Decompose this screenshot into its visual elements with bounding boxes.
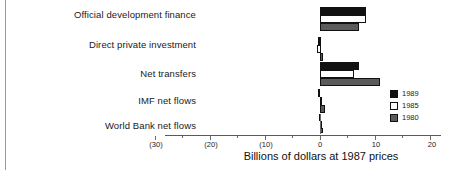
x-axis-minor-tick-5 bbox=[347, 136, 348, 138]
bar-net-transfers-1980 bbox=[320, 78, 380, 86]
bar-official-development-finance-1985 bbox=[320, 15, 366, 23]
legend-swatch-icon-1980 bbox=[390, 114, 398, 122]
chart-legend: 1989 1985 1980 bbox=[390, 88, 419, 124]
bar-imf-net-flows-1980 bbox=[320, 105, 325, 113]
legend-label-1980: 1980 bbox=[402, 113, 419, 122]
legend-swatch-icon-1989 bbox=[390, 90, 398, 98]
x-axis-minor-tick-15 bbox=[402, 136, 403, 138]
x-axis-tick-label-zero: 0 bbox=[318, 140, 322, 149]
x-axis-title: Billions of dollars at 1987 prices bbox=[244, 150, 399, 162]
legend-item-1985: 1985 bbox=[390, 100, 419, 111]
x-axis-tick-label-20: 20 bbox=[428, 140, 436, 149]
x-axis-tick-label-minus10: (10) bbox=[259, 140, 272, 149]
x-axis-tick-label-10: 10 bbox=[372, 140, 380, 149]
plot-area bbox=[0, 0, 457, 134]
legend-item-1989: 1989 bbox=[390, 88, 419, 99]
x-axis-tick-label-minus20: (20) bbox=[204, 140, 217, 149]
zero-reference-line bbox=[320, 114, 321, 134]
x-axis-minor-tick-minus15 bbox=[237, 136, 238, 138]
x-axis-tick-label-minus30: (30) bbox=[149, 140, 162, 149]
chart-figure: Official development finance Direct priv… bbox=[0, 0, 457, 170]
bar-net-transfers-1985 bbox=[320, 70, 354, 78]
bar-direct-private-investment-1985 bbox=[317, 45, 321, 53]
bar-official-development-finance-1980 bbox=[320, 23, 359, 31]
legend-label-1985: 1985 bbox=[402, 101, 419, 110]
x-axis-minor-tick-minus5 bbox=[292, 136, 293, 138]
x-axis-minor-tick-minus25 bbox=[182, 136, 183, 138]
bar-direct-private-investment-1989 bbox=[318, 37, 321, 45]
legend-item-1980: 1980 bbox=[390, 112, 419, 123]
x-axis-line bbox=[165, 135, 441, 136]
bar-imf-net-flows-1989 bbox=[318, 89, 320, 97]
bar-net-transfers-1989 bbox=[320, 62, 359, 70]
bar-official-development-finance-1989 bbox=[320, 7, 366, 15]
bar-imf-net-flows-1985 bbox=[320, 97, 322, 105]
legend-swatch-icon-1985 bbox=[390, 102, 398, 110]
legend-label-1989: 1989 bbox=[402, 89, 419, 98]
bar-direct-private-investment-1980 bbox=[320, 53, 323, 61]
